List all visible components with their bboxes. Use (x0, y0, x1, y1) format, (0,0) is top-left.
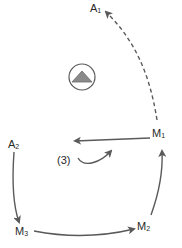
edge-m2-m1 (151, 151, 162, 215)
node-m2-base: M (137, 220, 146, 232)
node-m3-sub: 3 (24, 230, 28, 237)
node-m1-base: M (152, 127, 161, 139)
edge-m1-left (75, 138, 150, 141)
edge-a2-m3 (13, 152, 19, 222)
node-m3-label: M3 (15, 226, 28, 237)
edge-m3-m2 (34, 229, 134, 235)
edge-m1-a1-dashed (106, 12, 157, 120)
node-m2-label: M2 (137, 221, 150, 232)
node-m1-sub: 1 (161, 132, 165, 139)
edge-annotation-curve (78, 151, 111, 163)
diagram-canvas: A1 M1 A2 M2 M3 (3) (0, 0, 182, 248)
triangle-in-circle-icon (69, 64, 95, 90)
diagram-edges (0, 0, 182, 248)
node-m1-label: M1 (152, 128, 165, 139)
node-a1-sub: 1 (97, 7, 101, 14)
node-a2-label: A2 (8, 139, 19, 150)
node-a2-sub: 2 (15, 143, 19, 150)
node-m2-sub: 2 (146, 225, 150, 232)
annotation-label: (3) (57, 155, 70, 166)
node-m3-base: M (15, 225, 24, 237)
node-a1-label: A1 (90, 3, 101, 14)
